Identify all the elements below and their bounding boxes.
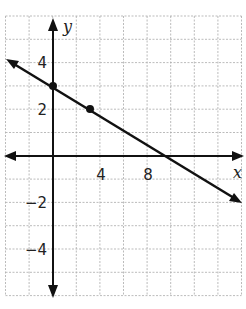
line-arrow-right-icon [229, 193, 242, 203]
coordinate-plane: x y 4 8 4 2 −2 −4 [0, 0, 246, 309]
data-line [6, 59, 242, 203]
y-tick-label: 4 [37, 54, 47, 72]
x-axis-right-arrow-icon [232, 151, 244, 161]
y-axis-up-arrow-icon [48, 18, 58, 31]
y-tick-label: −4 [25, 241, 47, 259]
y-axis-label: y [62, 17, 73, 36]
y-tick-label: −2 [25, 194, 47, 212]
line-arrow-left-icon [6, 59, 19, 69]
y-tick-label: 2 [37, 101, 47, 119]
x-axis-label: x [233, 163, 242, 182]
x-axis [4, 151, 244, 161]
x-tick-label: 4 [96, 166, 106, 184]
point-y-intercept [49, 82, 57, 90]
y-axis [48, 18, 58, 298]
y-axis-down-arrow-icon [48, 285, 58, 298]
x-tick-label: 8 [143, 166, 153, 184]
point-3-2 [86, 105, 94, 113]
